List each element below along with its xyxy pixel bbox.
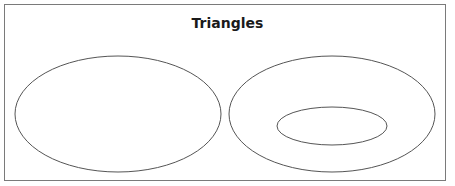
right-outer-set-ellipse bbox=[229, 56, 435, 172]
right-inner-subset-ellipse bbox=[277, 107, 387, 145]
venn-diagram bbox=[0, 0, 455, 186]
left-set-ellipse bbox=[15, 56, 221, 172]
